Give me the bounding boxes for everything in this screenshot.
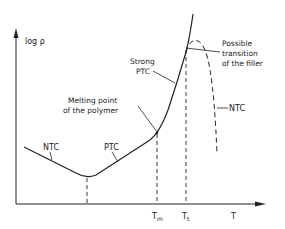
melting-point-leader	[138, 106, 157, 132]
melting-point-label-line1: Melting point	[68, 96, 117, 105]
ntc-left-leader	[50, 152, 52, 160]
y-axis-arrow-icon	[14, 28, 19, 38]
melting-point-label-line2: of the polymer	[63, 106, 119, 115]
ptc-leader	[112, 152, 118, 162]
strong-ptc-label-line2: PTC	[136, 67, 150, 76]
strong-ptc-leader	[153, 71, 175, 83]
melting-point-marker	[156, 132, 159, 135]
possible-transition-line1: Possible	[222, 39, 253, 48]
x-axis-arrow-icon	[255, 202, 266, 207]
possible-transition-line3: of the filler	[222, 59, 264, 68]
svg-text:Tt: Tt	[181, 212, 190, 222]
ptc-diagram: log ρ T Tm Tt NTC PTC Melting point of t…	[0, 0, 285, 229]
x-axis-label: T	[230, 212, 236, 221]
tick-label-tm: Tm	[151, 212, 163, 222]
ptc-label: PTC	[104, 143, 119, 152]
y-axis-label: log ρ	[25, 37, 45, 46]
possible-transition-line2: transition	[222, 49, 258, 58]
filler-transition-curve	[186, 40, 217, 155]
strong-ptc-label-line1: Strong	[130, 57, 155, 66]
tick-label-tt: Tt	[181, 212, 190, 222]
ntc-right-label: NTC	[229, 104, 245, 113]
possible-transition-leader	[186, 48, 220, 52]
svg-text:Tm: Tm	[151, 212, 163, 222]
ntc-left-label: NTC	[43, 143, 59, 152]
